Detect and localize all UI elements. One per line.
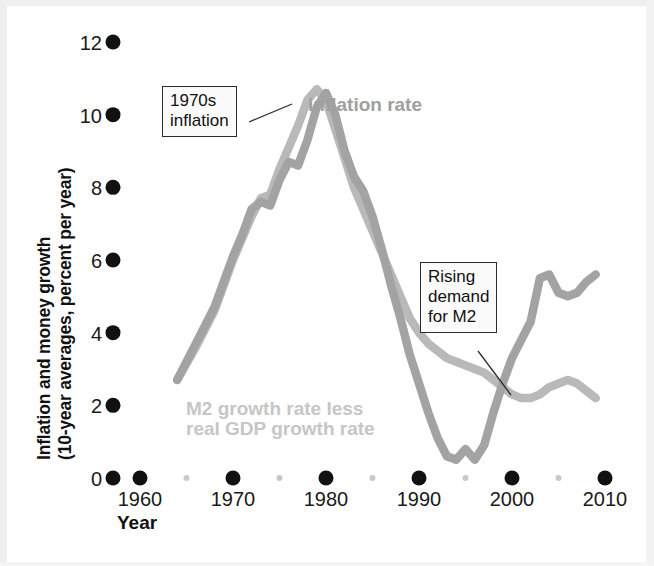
xtick-minor-dot-1995: [463, 475, 469, 481]
xtick-label-2000: 2000: [477, 489, 547, 509]
xtick-dot-1960: [133, 471, 148, 486]
xtick-label-1970: 1970: [198, 489, 268, 509]
xtick-label-1980: 1980: [291, 489, 361, 509]
ytick-label-12: 12: [62, 33, 102, 53]
annotation-m2-line1: Rising: [428, 267, 475, 286]
xtick-dot-1970: [226, 471, 241, 486]
annotation-1970s-line1: 1970s: [170, 91, 216, 110]
x-axis-title: Year: [117, 512, 157, 534]
leader-line-1970s-inflation: [249, 104, 292, 122]
xtick-dot-2000: [505, 471, 520, 486]
ytick-dot-12: [106, 35, 121, 50]
xtick-label-1960: 1960: [105, 489, 175, 509]
chart-page: 12 10 8 6 4 2 0 1960 1970 1980 1990 2000…: [0, 0, 654, 566]
series-label-m2-line2: real GDP growth rate: [186, 418, 375, 439]
annotation-m2-line2: demand: [428, 287, 489, 306]
ytick-label-10: 10: [62, 106, 102, 126]
ytick-dot-10: [106, 107, 121, 122]
ytick-dot-8: [106, 180, 121, 195]
xtick-minor-dot-1985: [370, 475, 376, 481]
xtick-dot-2010: [598, 471, 613, 486]
xtick-minor-dot-2005: [556, 475, 562, 481]
ytick-label-0: 0: [62, 469, 102, 489]
series-label-m2-growth: M2 growth rate less real GDP growth rate: [186, 399, 375, 439]
annotation-box-1970s-inflation: 1970s inflation: [162, 86, 237, 137]
series-label-inflation-rate: Inflation rate: [308, 95, 422, 115]
ytick-dot-6: [106, 253, 121, 268]
y-axis-title-line1: Inflation and money growth: [34, 160, 55, 460]
xtick-label-2010: 2010: [570, 489, 640, 509]
xtick-label-1990: 1990: [384, 489, 454, 509]
y-axis-title: Inflation and money growth (10-year aver…: [34, 160, 76, 460]
xtick-minor-dot-1965: [184, 475, 190, 481]
annotation-1970s-line2: inflation: [170, 111, 229, 130]
xtick-dot-1980: [319, 471, 334, 486]
annotation-m2-line3: for M2: [428, 307, 476, 326]
series-label-m2-line1: M2 growth rate less: [186, 398, 363, 419]
xtick-minor-dot-1975: [277, 475, 283, 481]
xtick-dot-1990: [412, 471, 427, 486]
y-axis-title-line2: (10-year averages, percent per year): [55, 160, 76, 460]
ytick-dot-0: [106, 471, 121, 486]
ytick-dot-4: [106, 325, 121, 340]
annotation-box-rising-demand-for-m2: Rising demand for M2: [420, 262, 497, 333]
ytick-dot-2: [106, 398, 121, 413]
